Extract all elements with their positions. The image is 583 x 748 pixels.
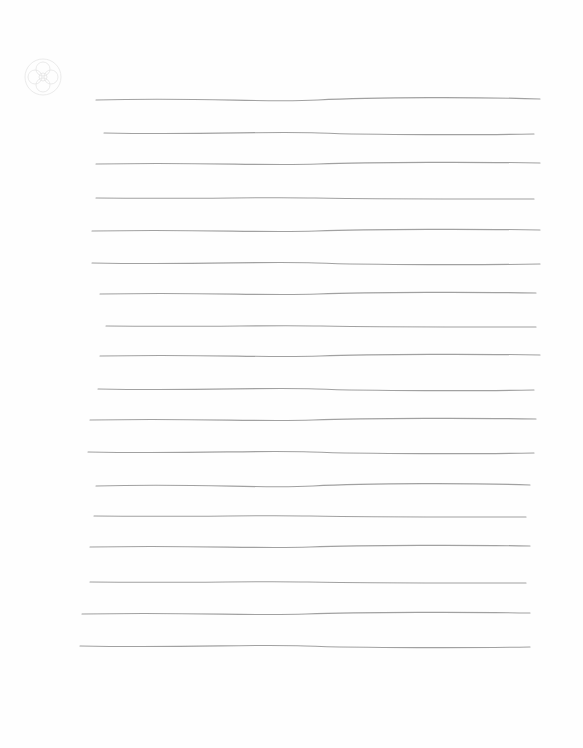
ruled-line bbox=[92, 229, 540, 231]
ruled-line bbox=[94, 516, 526, 517]
lined-paper-page bbox=[0, 0, 583, 748]
ruled-line bbox=[96, 484, 530, 487]
ruled-line bbox=[80, 645, 530, 647]
ruled-line bbox=[96, 98, 540, 101]
ruled-line bbox=[100, 354, 540, 356]
ruled-line bbox=[92, 262, 540, 264]
ruled-line bbox=[96, 198, 534, 199]
ruled-line bbox=[104, 132, 534, 134]
ruled-line bbox=[90, 418, 536, 420]
ruled-line bbox=[96, 162, 540, 164]
ruled-line bbox=[106, 326, 536, 327]
ruled-line bbox=[82, 612, 530, 614]
ruled-line bbox=[98, 388, 534, 390]
ruled-line bbox=[100, 292, 536, 294]
ruled-line bbox=[90, 582, 526, 583]
ruled-lines bbox=[0, 0, 583, 748]
ruled-line bbox=[90, 545, 530, 547]
ruled-line bbox=[88, 451, 534, 453]
